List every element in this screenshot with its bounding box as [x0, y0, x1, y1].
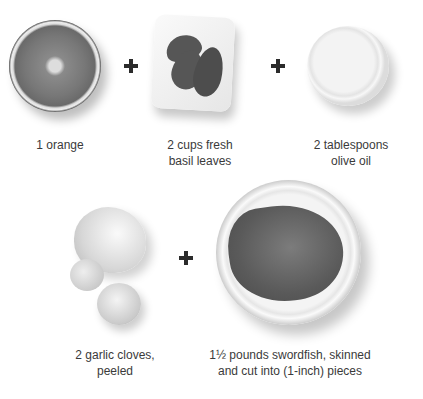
garlic-clove-image: [70, 259, 104, 291]
plus-icon: [178, 250, 194, 266]
label-line: basil leaves: [150, 153, 250, 169]
ingredient-label-garlic: 2 garlic cloves, peeled: [60, 347, 170, 379]
basil-plate-image: [151, 14, 236, 112]
ingredient-label-olive-oil: 2 tablespoons olive oil: [296, 137, 406, 169]
ingredient-label-swordfish: 1½ pounds swordfish, skinned and cut int…: [205, 347, 375, 379]
label-line: 2 tablespoons: [296, 137, 406, 153]
ingredient-label-orange: 1 orange: [20, 137, 100, 153]
orange-image: [9, 20, 101, 112]
olive-oil-dish-image: [307, 26, 389, 106]
label-line: olive oil: [296, 153, 406, 169]
plus-icon: [123, 58, 139, 74]
plus-icon: [270, 58, 286, 74]
label-line: peeled: [60, 363, 170, 379]
label-line: 1 orange: [20, 137, 100, 153]
label-line: 2 cups fresh: [150, 137, 250, 153]
label-line: 2 garlic cloves,: [60, 347, 170, 363]
garlic-clove-image: [97, 283, 141, 325]
label-line: 1½ pounds swordfish, skinned: [205, 347, 375, 363]
label-line: and cut into (1-inch) pieces: [205, 363, 375, 379]
ingredient-label-basil: 2 cups fresh basil leaves: [150, 137, 250, 169]
